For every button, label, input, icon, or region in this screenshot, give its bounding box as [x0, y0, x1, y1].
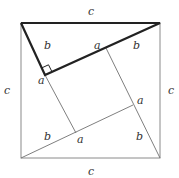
label-right-b: b [136, 130, 143, 143]
label-top-triangle-b-right: b [133, 39, 140, 52]
label-top-triangle-a-mid: a [94, 39, 101, 52]
label-top-c: c [88, 5, 94, 18]
label-right-c: c [168, 84, 174, 97]
inner-line-top-right [106, 48, 160, 158]
label-bottom-a: a [77, 133, 84, 146]
label-bottom-b: b [44, 130, 51, 143]
label-top-triangle-b-left: b [44, 39, 51, 52]
label-bottom-c: c [88, 165, 94, 178]
label-left-c: c [4, 84, 10, 97]
pythagorean-square-diagram: c c c c b a b a a b a b [0, 0, 179, 178]
label-right-a: a [137, 94, 144, 107]
label-left-a: a [38, 74, 45, 87]
inner-line-left [45, 75, 76, 133]
inner-line-bottom [21, 105, 133, 158]
